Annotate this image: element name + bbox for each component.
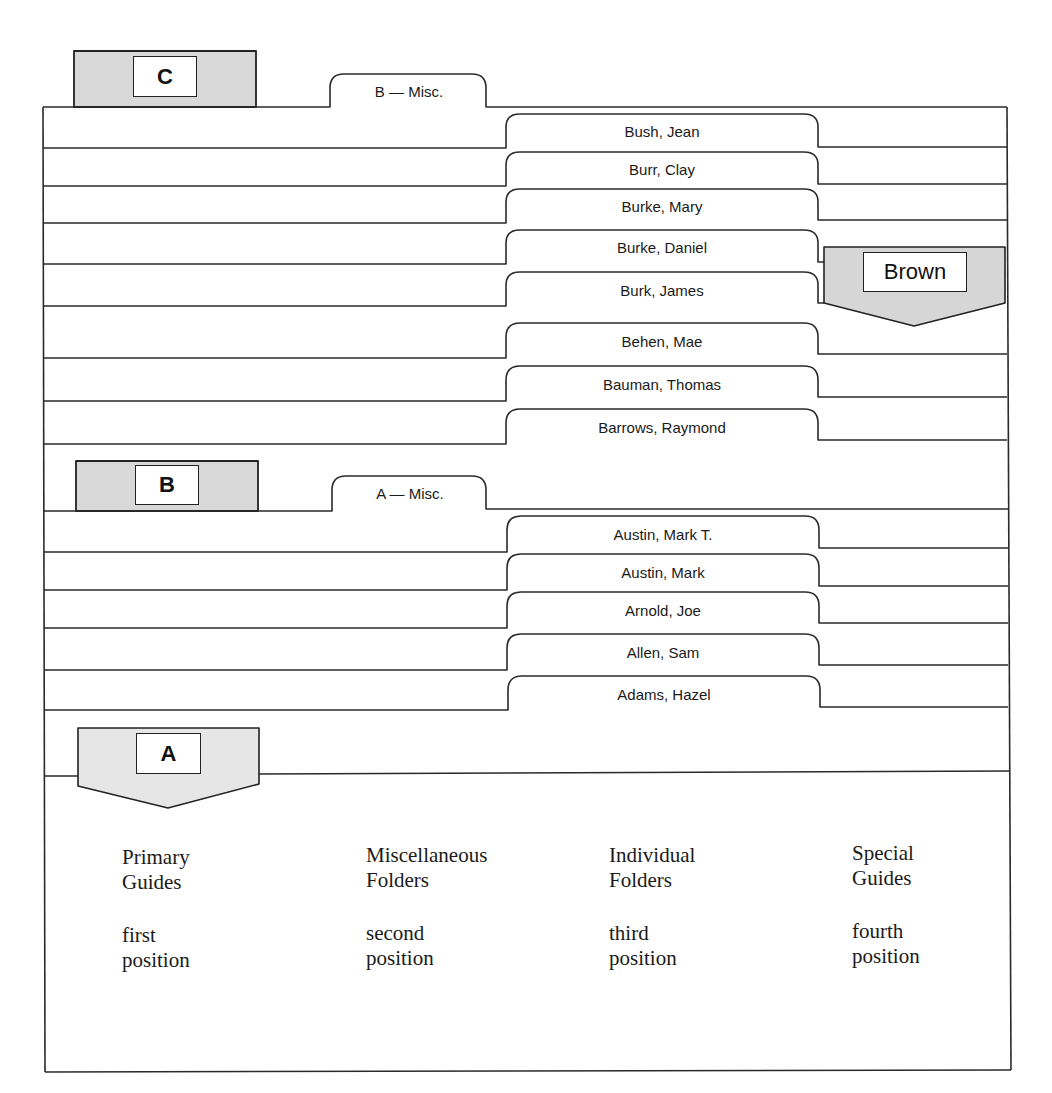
- individual-folder-burk-james[interactable]: Burk, James: [506, 275, 818, 305]
- legend-title-line1: Special: [852, 841, 920, 866]
- individual-folder-burke-daniel[interactable]: Burke, Daniel: [506, 232, 818, 262]
- legend-special-guides: Special Guides fourth position: [852, 841, 920, 969]
- legend-title-line2: Folders: [609, 868, 695, 893]
- individual-folder-behen-mae[interactable]: Behen, Mae: [506, 326, 818, 356]
- legend-title-line1: Primary: [122, 845, 190, 870]
- individual-folder-austin-mark[interactable]: Austin, Mark: [507, 557, 819, 587]
- primary-guide-b-label[interactable]: B: [135, 465, 199, 505]
- legend-title-line2: Folders: [366, 868, 487, 893]
- drawer-bottom-edge: [45, 1070, 1011, 1072]
- individual-folder-arnold-joe[interactable]: Arnold, Joe: [507, 595, 819, 625]
- individual-folder-burke-mary[interactable]: Burke, Mary: [506, 191, 818, 221]
- legend-position-line1: first: [122, 923, 190, 948]
- individual-folder-barrows-raymond[interactable]: Barrows, Raymond: [506, 412, 818, 442]
- legend-position-line1: second: [366, 921, 487, 946]
- individual-folder-bush-jean[interactable]: Bush, Jean: [506, 116, 818, 146]
- legend-title-line1: Miscellaneous: [366, 843, 487, 868]
- a-guide-baseline-right: [259, 771, 1009, 774]
- individual-folder-adams-hazel[interactable]: Adams, Hazel: [508, 679, 820, 709]
- primary-guide-c-label[interactable]: C: [133, 56, 197, 97]
- legend-position-line2: position: [609, 946, 695, 971]
- individual-folder-austin-mark-t[interactable]: Austin, Mark T.: [507, 519, 819, 549]
- legend-title-line2: Guides: [852, 866, 920, 891]
- legend-position-line2: position: [852, 944, 920, 969]
- legend-title-line2: Guides: [122, 870, 190, 895]
- individual-folder-allen-sam[interactable]: Allen, Sam: [507, 637, 819, 667]
- legend-position-line1: third: [609, 921, 695, 946]
- legend-individual-folders: Individual Folders third position: [609, 843, 695, 971]
- legend-miscellaneous-folders: Miscellaneous Folders second position: [366, 843, 487, 971]
- primary-guide-a-label[interactable]: A: [136, 733, 201, 774]
- special-guide-brown-label[interactable]: Brown: [863, 252, 967, 292]
- misc-folder-b-label[interactable]: B — Misc.: [332, 76, 486, 106]
- legend-position-line2: position: [122, 948, 190, 973]
- legend-position-line1: fourth: [852, 919, 920, 944]
- legend-title-line1: Individual: [609, 843, 695, 868]
- individual-folder-burr-clay[interactable]: Burr, Clay: [506, 154, 818, 184]
- misc-folder-a-label[interactable]: A — Misc.: [334, 478, 486, 508]
- legend-position-line2: position: [366, 946, 487, 971]
- individual-folder-bauman-thomas[interactable]: Bauman, Thomas: [506, 369, 818, 399]
- legend-primary-guides: Primary Guides first position: [122, 845, 190, 973]
- drawer-right-edge: [1007, 107, 1011, 1070]
